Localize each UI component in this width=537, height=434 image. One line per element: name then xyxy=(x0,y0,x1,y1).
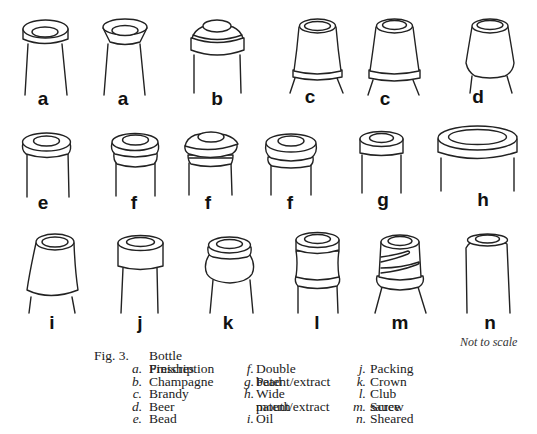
drawing-label-e: e xyxy=(38,193,49,212)
drawing-label-n: n xyxy=(484,313,496,332)
legend-key: e. xyxy=(120,413,142,426)
drawing-k-crown xyxy=(205,237,253,313)
drawing-m-screw xyxy=(375,235,426,313)
drawing-label-i: i xyxy=(49,313,54,332)
drawing-b-champagne xyxy=(191,20,244,93)
drawing-label-d: d xyxy=(472,87,484,106)
drawing-g-patent-extract xyxy=(360,132,403,194)
drawing-i-oil xyxy=(27,234,78,313)
drawing-label-f: f xyxy=(205,193,211,212)
drawing-label-l: l xyxy=(314,313,319,332)
drawing-label-c: c xyxy=(380,89,391,108)
drawing-a-prescription xyxy=(23,20,68,95)
bottle-finishes-figure: a a b c c d e f f f g h i j k l m n Not … xyxy=(0,0,537,434)
drawing-j-packing xyxy=(118,236,163,314)
drawing-d-beer xyxy=(466,19,514,93)
legend-key: i. xyxy=(232,413,254,426)
drawing-label-f: f xyxy=(287,193,293,212)
drawing-label-a: a xyxy=(38,89,49,108)
drawing-e-bead xyxy=(22,133,70,197)
drawing-label-g: g xyxy=(377,190,389,209)
drawing-f-double-bead-alt xyxy=(185,132,238,195)
drawing-label-f: f xyxy=(131,193,137,212)
drawing-h-wide-mouth xyxy=(438,126,517,191)
drawing-f-double-bead-alt2 xyxy=(266,134,317,195)
drawing-a-prescription-flared xyxy=(103,19,147,95)
drawing-label-m: m xyxy=(392,313,409,332)
drawing-label-j: j xyxy=(137,313,142,332)
drawing-label-a: a xyxy=(118,89,129,108)
drawing-f-double-bead xyxy=(111,134,158,197)
legend-item-sheared: Sheared xyxy=(370,413,413,426)
figure-number: Fig. 3. xyxy=(94,348,129,363)
drawing-label-c: c xyxy=(305,87,316,106)
drawing-c-brandy xyxy=(290,19,343,93)
drawing-label-h: h xyxy=(477,190,489,209)
drawing-l-club-sauce xyxy=(295,233,339,314)
drawing-label-k: k xyxy=(223,313,234,332)
caption-title-row: Fig. 3. xyxy=(94,350,154,363)
legend-key: n. xyxy=(344,413,366,426)
legend-item-bead: Bead xyxy=(149,413,177,426)
drawing-n-sheared xyxy=(466,234,510,313)
legend-item-oil: Oil xyxy=(256,413,273,426)
legend-key: h. xyxy=(232,388,254,401)
drawing-label-b: b xyxy=(211,89,223,108)
scale-note: Not to scale xyxy=(460,335,517,350)
drawing-c-brandy-alt xyxy=(368,19,420,95)
